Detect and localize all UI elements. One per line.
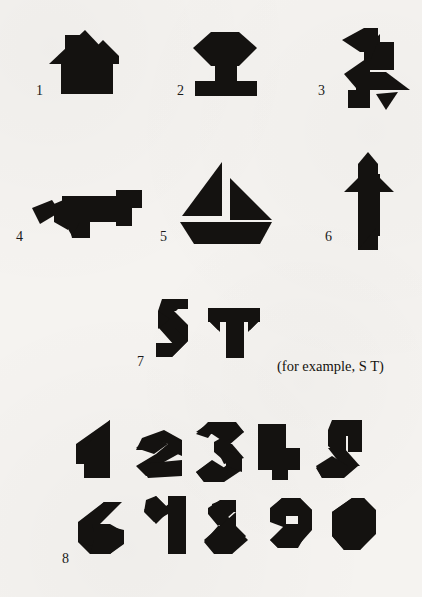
digit-6-tangram-svg (76, 500, 128, 556)
digit-5-tangram-svg (314, 418, 366, 480)
figure-label-5: 5 (160, 230, 167, 244)
letter-s-tangram-svg (150, 297, 194, 359)
digit-9 (264, 496, 316, 554)
digit-1 (72, 418, 120, 480)
sailboat-tangram-svg (172, 158, 280, 246)
digit-7 (140, 494, 190, 556)
digit-8-tangram-svg (202, 498, 250, 558)
digit-4 (254, 420, 304, 482)
figure-pedestal (187, 26, 267, 98)
figure-label-4: 4 (16, 230, 23, 244)
figure-letter-s (150, 297, 194, 359)
figure-fox (28, 178, 144, 242)
digit-7-tangram-svg (140, 494, 190, 556)
figure-label-6: 6 (325, 230, 332, 244)
figure-label-8: 8 (62, 552, 69, 566)
figure-rocket (336, 150, 402, 254)
digit-0-tangram-svg (330, 496, 378, 554)
digit-2 (134, 430, 186, 482)
figure-sailboat (172, 158, 280, 246)
figure-label-3: 3 (318, 84, 325, 98)
figure-bird (326, 22, 414, 114)
figure-label-2: 2 (177, 84, 184, 98)
scanned-page: 1 2 3 4 (0, 0, 422, 597)
digit-6 (76, 500, 128, 556)
fox-tangram-svg (28, 178, 144, 242)
digit-1-tangram-svg (72, 418, 120, 480)
digit-9-tangram-svg (264, 496, 316, 554)
digit-5 (314, 418, 366, 480)
figure-letter-t (206, 306, 262, 360)
digit-8 (202, 498, 250, 558)
pedestal-tangram-svg (187, 26, 267, 98)
letter-t-tangram-svg (206, 306, 262, 360)
digit-4-tangram-svg (254, 420, 304, 482)
example-caption: (for example, S T) (277, 358, 384, 375)
rocket-tangram-svg (336, 150, 402, 254)
digit-3 (194, 420, 246, 484)
digit-3-tangram-svg (194, 420, 246, 484)
bird-tangram-svg (326, 22, 414, 114)
digit-0 (330, 496, 378, 554)
figure-house (47, 24, 127, 96)
digit-2-tangram-svg (134, 430, 186, 482)
house-tangram-svg (47, 24, 127, 96)
figure-label-1: 1 (36, 84, 43, 98)
figure-label-7: 7 (137, 355, 144, 369)
